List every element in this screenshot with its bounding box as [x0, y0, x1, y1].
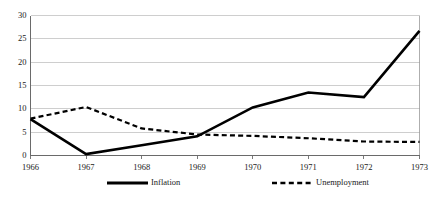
y-axis-tick-labels: 302520151050	[18, 10, 27, 160]
chart-canvas: 302520151050 196619671968196919701971197…	[0, 0, 429, 198]
x-tick-label-1973: 1973	[411, 162, 428, 172]
y-tick-label-0: 0	[22, 150, 26, 160]
x-tick-label-1966: 1966	[22, 162, 39, 172]
x-tick-label-1971: 1971	[300, 162, 317, 172]
x-axis-tick-labels: 19661967196819691970197119721973	[22, 162, 428, 172]
series-line-unemployment	[31, 107, 420, 142]
legend-label-inflation: Inflation	[151, 177, 181, 187]
y-tick-label-15: 15	[18, 80, 27, 90]
x-tick-label-1972: 1972	[355, 162, 372, 172]
x-tick-label-1967: 1967	[78, 162, 95, 172]
y-tick-label-10: 10	[18, 103, 27, 113]
legend-label-unemployment: Unemployment	[316, 177, 370, 187]
chart-legend: InflationUnemployment	[107, 177, 370, 187]
y-tick-label-5: 5	[22, 127, 26, 137]
y-tick-label-20: 20	[18, 57, 27, 67]
x-tick-label-1969: 1969	[189, 162, 206, 172]
line-chart: 302520151050 196619671968196919701971197…	[0, 0, 429, 198]
x-tick-label-1970: 1970	[244, 162, 261, 172]
x-tick-label-1968: 1968	[133, 162, 150, 172]
y-tick-label-30: 30	[18, 10, 27, 20]
data-series-group	[31, 31, 420, 154]
y-tick-label-25: 25	[18, 33, 27, 43]
